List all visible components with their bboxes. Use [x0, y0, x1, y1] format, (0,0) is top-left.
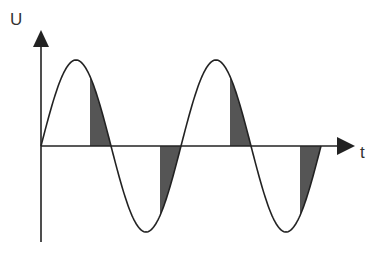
time-axis-arrowhead	[337, 137, 355, 155]
y-axis-label: U	[10, 10, 22, 29]
sine-wave-diagram: U t	[0, 0, 379, 255]
voltage-axis-arrowhead	[33, 30, 49, 47]
x-axis-label: t	[360, 143, 365, 162]
